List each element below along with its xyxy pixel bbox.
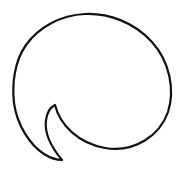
speech-bubble-outline [13,14,171,160]
speech-bubble-icon [0,0,183,174]
canvas: speech-bubble-icon [0,0,183,174]
